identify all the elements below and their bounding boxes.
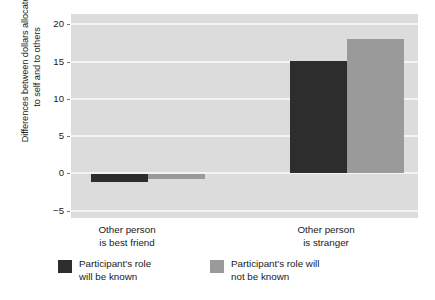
bar-best-friend-role-known [91,174,148,182]
y-tick-label-20: 20 [38,19,64,29]
y-tick-mark-10 [67,99,70,100]
legend-label-role-known: Participant's role will be known [79,258,151,283]
legend-label-role-not-known: Participant's role will not be known [231,258,319,283]
y-tick-mark-minus-5 [67,211,70,212]
y-tick-mark-20 [67,24,70,25]
x-category-label-best-friend: Other person is best friend [67,224,187,249]
legend-entry-role-not-known: Participant's role will not be known [210,258,410,290]
y-tick-label-15: 15 [38,57,64,67]
gridline-20 [71,23,418,25]
gridline-minus-5 [71,210,418,212]
x-category-label-stranger: Other person is stranger [266,224,386,249]
y-tick-label-5: 5 [38,131,64,141]
chart-legend: Participant's role will be known Partici… [58,258,418,292]
y-tick-mark-15 [67,62,70,63]
y-tick-label-0: 0 [38,168,64,178]
y-tick-label-10: 10 [38,94,64,104]
legend-swatch-role-known [58,260,72,273]
plot-area [71,14,418,218]
y-tick-label-minus-5: −5 [38,206,64,216]
y-tick-mark-0 [67,173,70,174]
bar-chart-figure: Differences between dollars allocated to… [0,0,435,300]
legend-entry-role-known: Participant's role will be known [58,258,228,290]
y-tick-mark-5 [67,136,70,137]
legend-swatch-role-not-known [210,260,224,273]
bar-stranger-role-not-known [347,39,404,173]
bar-best-friend-role-not-known [148,174,205,179]
bar-stranger-role-known [290,61,347,173]
